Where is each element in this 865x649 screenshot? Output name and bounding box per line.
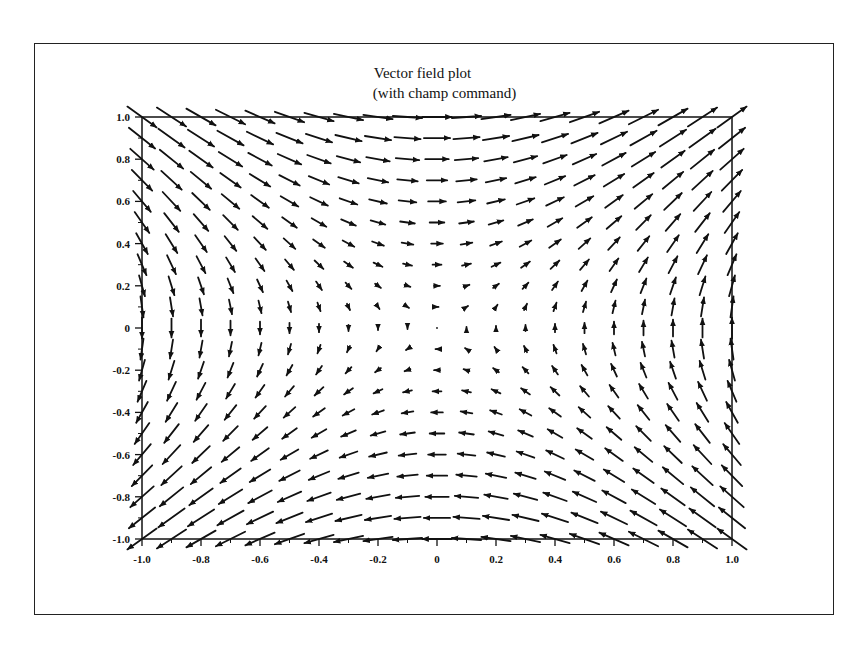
vector-arrow bbox=[638, 405, 650, 420]
x-tick-label: -0.8 bbox=[192, 553, 210, 565]
vector-arrow bbox=[576, 449, 594, 459]
vector-arrow bbox=[256, 258, 265, 271]
vector-arrow bbox=[368, 178, 388, 182]
vector-arrow bbox=[573, 492, 596, 502]
vector-arrow bbox=[377, 347, 380, 351]
vector-arrow bbox=[602, 153, 625, 166]
vector-arrow bbox=[518, 430, 533, 436]
vector-arrow bbox=[163, 445, 181, 464]
vector-arrow bbox=[484, 157, 507, 161]
vector-arrow bbox=[318, 303, 321, 311]
vector-arrow bbox=[571, 133, 597, 143]
vector-arrow bbox=[660, 130, 686, 147]
vector-arrow bbox=[487, 453, 505, 457]
x-tick-label: -1.0 bbox=[133, 553, 151, 565]
y-tick-label: 1.0 bbox=[116, 111, 130, 123]
vector-arrow bbox=[223, 215, 238, 230]
vector-arrow bbox=[661, 151, 684, 168]
vector-arrow bbox=[571, 513, 597, 523]
vector-arrow bbox=[285, 386, 294, 396]
vector-arrow bbox=[288, 302, 291, 312]
vector-arrow bbox=[250, 469, 270, 482]
vector-arrow bbox=[316, 282, 322, 290]
vector-arrow bbox=[697, 403, 709, 422]
vector-arrow bbox=[579, 238, 591, 248]
vector-arrow bbox=[582, 365, 588, 375]
vector-arrow bbox=[276, 133, 302, 143]
vector-arrow bbox=[371, 220, 386, 224]
vector-arrow bbox=[523, 283, 529, 289]
vector-arrow bbox=[574, 175, 594, 185]
vector-arrow bbox=[229, 342, 232, 357]
vector-arrow bbox=[256, 385, 265, 398]
vector-arrow bbox=[400, 222, 415, 224]
vector-arrow bbox=[347, 346, 350, 352]
vector-arrow bbox=[515, 473, 535, 479]
vector-arrow bbox=[630, 511, 656, 526]
vector-arrow bbox=[642, 300, 645, 315]
vector-arrow bbox=[667, 404, 679, 421]
vector-arrow bbox=[347, 304, 350, 310]
vector-arrow bbox=[161, 171, 181, 190]
vector-arrow bbox=[546, 450, 564, 458]
vector-arrow bbox=[492, 263, 501, 267]
vector-arrow bbox=[601, 512, 627, 525]
vector-arrow bbox=[545, 176, 565, 184]
vector-arrow bbox=[607, 427, 622, 440]
vector-arrow bbox=[512, 515, 538, 521]
y-tick-label: 0.4 bbox=[116, 238, 130, 250]
vector-arrow bbox=[694, 445, 712, 464]
vector-arrow bbox=[189, 488, 212, 505]
vector-arrow bbox=[630, 131, 656, 146]
vector-arrow bbox=[456, 179, 476, 181]
vector-arrow bbox=[188, 130, 214, 147]
vector-arrow bbox=[343, 409, 355, 415]
vector-arrow bbox=[492, 389, 501, 393]
vector-arrow bbox=[309, 472, 329, 480]
vector-arrow bbox=[374, 263, 383, 267]
vector-arrow bbox=[524, 304, 527, 310]
vector-arrow bbox=[198, 277, 204, 294]
vector-arrow bbox=[635, 447, 653, 462]
vector-arrow bbox=[219, 152, 242, 167]
vector-arrow bbox=[405, 369, 411, 371]
vector-arrow bbox=[399, 200, 417, 202]
vector-arrow bbox=[583, 302, 586, 312]
vector-arrow bbox=[664, 193, 682, 210]
vector-arrow bbox=[403, 264, 412, 266]
vector-arrow bbox=[279, 471, 299, 481]
y-tick-label: -0.8 bbox=[113, 491, 131, 503]
vector-arrow bbox=[611, 364, 617, 377]
vector-arrow bbox=[663, 467, 683, 484]
x-tick-label: -0.4 bbox=[310, 553, 328, 565]
vector-arrow bbox=[254, 406, 266, 419]
vector-arrow bbox=[402, 243, 414, 245]
vector-arrow bbox=[310, 197, 328, 205]
vector-arrow bbox=[306, 514, 332, 522]
vector-arrow bbox=[551, 261, 560, 269]
vector-arrow bbox=[689, 509, 715, 528]
vector-arrow bbox=[166, 234, 178, 253]
vector-arrow bbox=[197, 383, 206, 400]
vector-arrow bbox=[396, 496, 419, 498]
vector-arrow bbox=[287, 281, 293, 291]
vector-arrow bbox=[340, 198, 358, 204]
vector-arrow bbox=[670, 277, 676, 294]
vector-arrow bbox=[695, 213, 710, 232]
vector-arrow bbox=[701, 298, 704, 317]
vector-arrow bbox=[461, 411, 473, 413]
vector-arrow bbox=[515, 177, 535, 183]
vector-arrow bbox=[341, 430, 356, 436]
vector-arrow bbox=[486, 474, 506, 478]
vector-arrow bbox=[217, 131, 243, 146]
vector-arrow bbox=[495, 347, 498, 351]
vector-arrow bbox=[228, 363, 234, 378]
vector-arrow bbox=[462, 264, 471, 266]
vector-arrow bbox=[462, 390, 471, 392]
vector-arrow bbox=[197, 256, 206, 273]
vector-arrow bbox=[366, 495, 389, 499]
vector-arrow bbox=[254, 237, 266, 250]
vector-arrow bbox=[194, 214, 209, 231]
vector-arrow bbox=[521, 262, 530, 268]
x-tick-label: 0.2 bbox=[489, 553, 503, 565]
